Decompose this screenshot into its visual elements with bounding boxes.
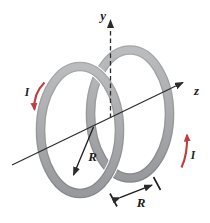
right-current-arrow-icon: [182, 135, 188, 168]
separation-label: R: [136, 195, 146, 210]
right-coil: [91, 50, 170, 178]
right-current: I: [182, 135, 196, 168]
left-coil-band: [41, 67, 120, 194]
left-coil: [41, 67, 120, 194]
radius-label: R: [87, 149, 97, 164]
right-coil-band: [91, 50, 170, 178]
diagram-canvas: z y R R I I: [0, 0, 210, 223]
helmholtz-coils-figure: z y R R I I: [0, 0, 210, 223]
y-axis-label: y: [98, 8, 106, 23]
right-current-label: I: [190, 149, 196, 161]
z-axis-label: z: [193, 83, 200, 98]
separation-tick-right: [154, 177, 161, 190]
separation-tick-left: [110, 194, 117, 207]
left-current-label: I: [24, 86, 30, 98]
